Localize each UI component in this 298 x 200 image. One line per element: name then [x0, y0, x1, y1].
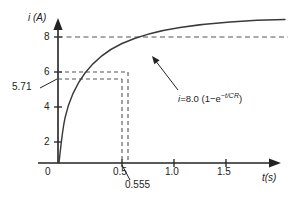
equation-close-paren: ): [239, 93, 242, 104]
y-tick-label-4: 4: [44, 102, 50, 112]
x-tick-label-05: 0.5: [113, 167, 127, 177]
equation-exponent-body: t/CR: [225, 92, 239, 99]
y-tick-label-2: 2: [44, 137, 50, 147]
y-axis-title: i (A): [28, 13, 46, 23]
equation-annotation: i=8.0 (1−e−t/CR): [178, 92, 242, 104]
equation-pointer-arrow: [152, 56, 178, 90]
exponential-curve: [59, 20, 285, 164]
equation-exponent: −t/CR: [221, 92, 239, 99]
x-axis: [38, 158, 281, 167]
time-callout-label: 0.555: [125, 180, 150, 190]
figure-exponential-current-graph: i (A) t(s) 0 8 6 4 2 0.5 1.0 1.5 5.71 0.…: [0, 0, 298, 200]
y-tick-label-8: 8: [44, 32, 50, 42]
origin-tick-label: 0: [45, 167, 51, 177]
leader-line-current-callout: [40, 79, 57, 88]
equation-amplitude: 8.0 (1: [186, 93, 210, 104]
x-axis-title: t(s): [262, 173, 276, 183]
current-callout-label: 5.71: [12, 82, 31, 92]
y-tick-label-6: 6: [44, 67, 50, 77]
x-tick-label-10: 1.0: [165, 167, 179, 177]
x-tick-label-15: 1.5: [217, 167, 231, 177]
